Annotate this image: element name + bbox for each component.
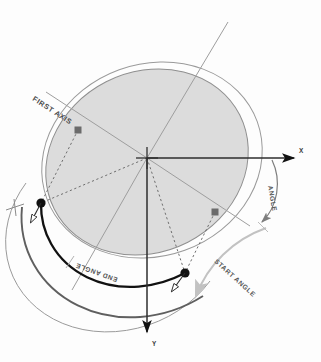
ellipse-arc-diagram: X Y ANGLE START ANGLE — [0, 0, 321, 362]
first-axis-square — [75, 127, 82, 134]
first-axis-indicator: FIRST AXIS — [31, 94, 74, 126]
x-axis-label: X — [299, 147, 304, 154]
start-angle-indicator: START ANGLE — [196, 222, 268, 298]
start-angle-label: START ANGLE — [213, 258, 257, 299]
second-axis-square — [212, 209, 219, 216]
angle-indicator: ANGLE — [262, 160, 278, 222]
first-axis-label: FIRST AXIS — [31, 94, 74, 126]
y-axis-label: Y — [152, 340, 157, 347]
diagram-root: X Y ANGLE START ANGLE — [0, 0, 321, 362]
